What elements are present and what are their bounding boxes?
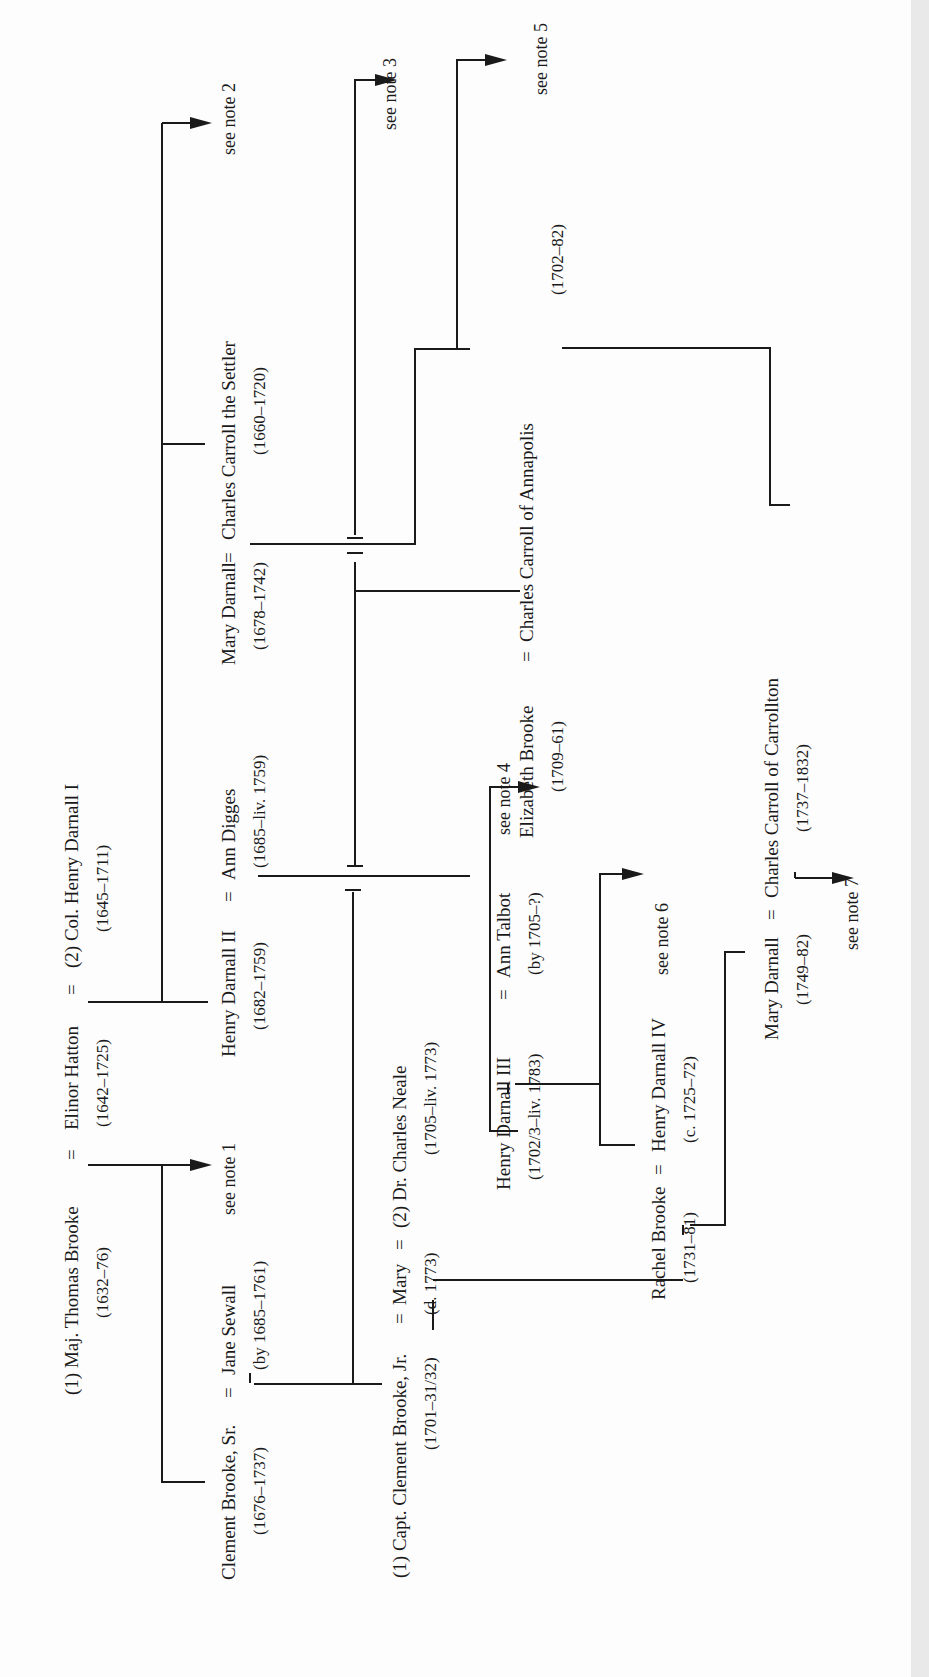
connector-settler-line	[250, 349, 470, 544]
person-capt-clement-brooke-jr: (1) Capt. Clement Brooke, Jr.	[389, 1354, 411, 1578]
person-charles-carroll-annapolis: Charles Carroll of Annapolis	[516, 423, 537, 642]
note-5-link[interactable]: see note 5	[531, 23, 551, 95]
connector-brooke-branch	[162, 1165, 205, 1482]
dates-thomas-brooke: (1632–76)	[93, 1247, 112, 1318]
connector-settler-branch	[457, 60, 485, 349]
equals-sign: =	[389, 1313, 410, 1324]
person-mary-darnall-1749: Mary Darnall	[761, 937, 782, 1040]
person-charles-carroll-settler: Charles Carroll the Settler	[218, 340, 239, 540]
arrow-note6-icon	[622, 868, 644, 880]
person-henry-darnall-iii: Henry Darnall III	[493, 1057, 514, 1190]
person-henry-darnall-iv: Henry Darnall IV	[648, 1018, 669, 1152]
dates-charles-neale: (1705–liv. 1773)	[421, 1042, 440, 1155]
connector-darnall-iii-note6	[600, 874, 625, 1084]
equals-sign: =	[218, 552, 239, 563]
page-edge-shadow	[911, 0, 929, 1677]
person-clement-brooke-sr: Clement Brooke, Sr.	[218, 1425, 239, 1580]
dates-rachel-brooke: (1731–81)	[680, 1212, 699, 1283]
dates-ann-digges: (1685–liv. 1759)	[250, 755, 269, 868]
person-henry-darnall-ii: Henry Darnall II	[218, 930, 239, 1057]
dates-charles-carroll-annapolis: (1702–82)	[548, 224, 567, 295]
equals-sign: =	[389, 1239, 410, 1250]
person-ann-digges: Ann Digges	[218, 789, 239, 880]
arrow-note5-icon	[485, 54, 507, 66]
dates-mary-darnall-1749: (1749–82)	[793, 934, 812, 1005]
connector-annapolis-line	[562, 348, 790, 505]
person-thomas-brooke: (1) Maj. Thomas Brooke	[61, 1206, 83, 1395]
dates-ann-talbot: (by 1705–?)	[525, 892, 544, 975]
equals-sign: =	[218, 1387, 239, 1398]
person-charles-carroll-carrollton: Charles Carroll of Carrollton	[761, 677, 782, 898]
connector-note3	[355, 80, 380, 535]
dates-henry-darnall-iii: (1702/3–liv. 1783)	[525, 1054, 544, 1180]
note-1-link[interactable]: see note 1	[219, 1143, 239, 1215]
equals-sign: =	[61, 984, 82, 995]
connector-lines	[88, 54, 854, 1482]
note-6-link[interactable]: see note 6	[652, 903, 672, 975]
equals-sign: =	[218, 891, 239, 902]
person-elinor-hatton: Elinor Hatton	[61, 1026, 82, 1130]
dates-elinor-hatton: (1642–1725)	[93, 1039, 112, 1127]
dates-henry-darnall-i: (1645–1711)	[93, 845, 112, 932]
dates-capt-clement-brooke-jr: (1701–31/32)	[421, 1357, 440, 1450]
connector-darnall-iii-branch	[600, 1084, 635, 1145]
dates-jane-sewall: (by 1685–1761)	[250, 1261, 269, 1370]
dates-henry-darnall-ii: (1682–1759)	[250, 942, 269, 1030]
note-2-link[interactable]: see note 2	[219, 83, 239, 155]
dates-elizabeth-brooke: (1709–61)	[548, 721, 567, 792]
genealogy-chart: (1) Maj. Thomas Brooke = Elinor Hatton =…	[0, 0, 929, 1677]
equals-sign: =	[648, 1164, 669, 1175]
person-henry-darnall-i: (2) Col. Henry Darnall I	[61, 784, 83, 968]
person-jane-sewall: Jane Sewall	[218, 1285, 239, 1375]
dates-henry-darnall-iv: (c. 1725–72)	[680, 1056, 699, 1143]
person-elizabeth-brooke: Elizabeth Brooke	[516, 706, 537, 838]
equals-sign: =	[516, 651, 537, 662]
equals-sign: =	[761, 909, 782, 920]
equals-sign: =	[493, 989, 514, 1000]
dates-mary: (d. 1773)	[421, 1253, 440, 1315]
person-mary: Mary	[389, 1263, 410, 1305]
note-7-link[interactable]: see note 7	[842, 878, 862, 950]
dates-charles-carroll-settler: (1660–1720)	[250, 367, 269, 455]
person-rachel-brooke: Rachel Brooke	[648, 1187, 669, 1300]
note-3-link[interactable]: see note 3	[380, 58, 400, 130]
arrow-note2-icon	[190, 117, 212, 129]
person-mary-darnall-1678: Mary Darnall	[218, 562, 239, 665]
person-charles-neale: (2) Dr. Charles Neale	[389, 1066, 411, 1229]
person-ann-talbot: Ann Talbot	[493, 892, 514, 978]
equals-sign: =	[61, 1149, 82, 1160]
dates-clement-brooke-sr: (1676–1737)	[250, 1447, 269, 1535]
chart-labels: (1) Maj. Thomas Brooke = Elinor Hatton =…	[61, 23, 862, 1580]
arrow-note1-icon	[190, 1159, 212, 1171]
note-4-link[interactable]: see note 4	[494, 763, 514, 835]
dates-charles-carroll-carrollton: (1737–1832)	[793, 744, 812, 832]
dates-mary-darnall-1678: (1678–1742)	[250, 562, 269, 650]
